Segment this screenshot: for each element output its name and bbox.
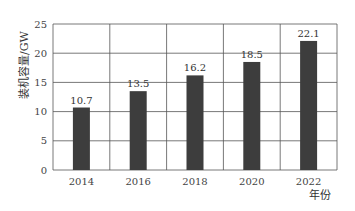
bar-value-label: 18.5 <box>241 49 263 60</box>
x-axis-ticks: 20142016201820202022 <box>69 176 322 187</box>
bar-value-label: 10.7 <box>70 95 92 106</box>
bar-value-label: 13.5 <box>127 78 149 89</box>
y-axis-title: 装机容量/GW <box>17 30 31 98</box>
chart-bars: 10.713.516.218.522.1 <box>70 28 319 170</box>
bar-2022 <box>300 41 317 170</box>
bar-value-label: 16.2 <box>184 62 206 73</box>
x-tick-label: 2020 <box>239 176 264 187</box>
bar-chart: 10.713.516.218.522.1 0510152025 20142016… <box>0 0 355 211</box>
y-tick-label: 10 <box>34 106 47 117</box>
bar-2016 <box>130 91 147 170</box>
x-tick-label: 2018 <box>182 176 207 187</box>
bar-2020 <box>243 62 260 170</box>
y-tick-label: 25 <box>34 19 47 30</box>
y-tick-label: 15 <box>34 77 47 88</box>
bar-value-label: 22.1 <box>297 28 319 39</box>
y-tick-label: 0 <box>41 165 47 176</box>
x-tick-label: 2014 <box>69 176 94 187</box>
x-tick-label: 2022 <box>296 176 321 187</box>
y-tick-label: 5 <box>41 135 47 146</box>
x-axis-title: 年份 <box>309 188 331 202</box>
y-axis-ticks: 0510152025 <box>34 19 47 176</box>
y-tick-label: 20 <box>34 48 47 59</box>
bar-2018 <box>187 75 204 170</box>
x-tick-label: 2016 <box>125 176 150 187</box>
bar-2014 <box>73 108 90 170</box>
